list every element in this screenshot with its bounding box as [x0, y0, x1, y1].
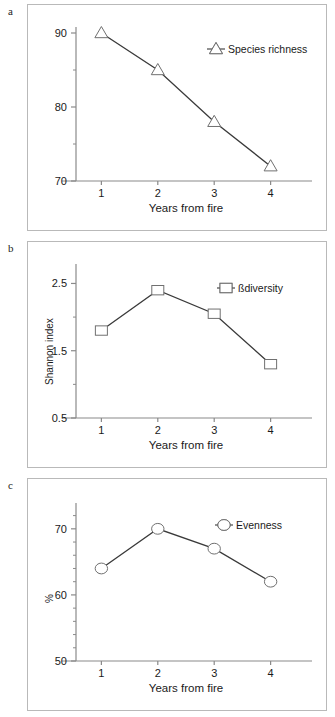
data-point-marker	[152, 523, 164, 534]
y-axis-tick-label: 50	[55, 655, 67, 667]
data-point-marker	[264, 576, 276, 587]
figure-three-panel-line-charts: a 7080901234Years from fireSpecies richn…	[0, 0, 335, 717]
x-axis-tick-label: 4	[268, 187, 274, 199]
data-point-marker	[151, 64, 164, 75]
x-axis-label: Years from fire	[149, 202, 223, 214]
legend-marker-top	[210, 43, 223, 54]
panel-b-frame: 0.51.52.51234Years from fireßdiversity S…	[27, 241, 327, 468]
legend-label: Evenness	[236, 519, 282, 531]
x-axis-tick-label: 2	[155, 424, 161, 436]
y-axis-tick-label: 0.5	[52, 412, 67, 424]
panel-b-plot: 0.51.52.51234Years from fireßdiversity	[28, 242, 328, 469]
panel-c: c 5060701234Years from fireEvenness %	[0, 474, 335, 717]
x-axis-tick-label: 3	[211, 424, 217, 436]
data-point-marker	[95, 326, 107, 335]
panel-b: b 0.51.52.51234Years from fireßdiversity…	[0, 237, 335, 474]
panel-letter-c: c	[8, 480, 13, 491]
data-point-marker	[264, 160, 277, 171]
panel-c-plot: 5060701234Years from fireEvenness	[28, 479, 328, 712]
panel-a-frame: 7080901234Years from fireSpecies richnes…	[27, 4, 327, 231]
data-line	[101, 529, 270, 582]
data-point-marker	[152, 286, 164, 295]
panel-b-y-axis-label: Shannon index	[44, 313, 55, 391]
x-axis-label: Years from fire	[149, 439, 223, 451]
legend-label: ßdiversity	[238, 282, 284, 294]
x-axis-tick-label: 4	[268, 667, 274, 679]
x-axis-tick-label: 3	[211, 667, 217, 679]
y-axis-tick-label: 90	[55, 27, 67, 39]
legend-marker-top	[218, 520, 230, 531]
x-axis-tick-label: 2	[155, 187, 161, 199]
panel-a-plot: 7080901234Years from fireSpecies richnes…	[28, 5, 328, 232]
x-axis-tick-label: 4	[268, 424, 274, 436]
legend-label: Species richness	[228, 43, 307, 55]
legend-marker-top	[220, 283, 232, 292]
panel-a: a 7080901234Years from fireSpecies richn…	[0, 0, 335, 237]
y-axis-tick-label: 60	[55, 589, 67, 601]
x-axis-label: Years from fire	[149, 682, 223, 694]
data-point-marker	[208, 543, 220, 554]
data-point-marker	[208, 309, 220, 318]
data-point-marker	[265, 360, 277, 369]
y-axis-tick-label: 80	[55, 101, 67, 113]
data-point-marker	[95, 563, 107, 574]
data-line	[101, 290, 270, 364]
y-axis-tick-label: 70	[55, 175, 67, 187]
panel-c-y-axis-label: %	[44, 586, 55, 612]
panel-letter-b: b	[8, 243, 14, 254]
x-axis-tick-label: 1	[98, 187, 104, 199]
panel-letter-a: a	[8, 6, 13, 17]
x-axis-tick-label: 1	[98, 424, 104, 436]
data-point-marker	[95, 27, 108, 38]
y-axis-tick-label: 70	[55, 523, 67, 535]
panel-c-frame: 5060701234Years from fireEvenness %	[27, 478, 327, 711]
x-axis-tick-label: 1	[98, 667, 104, 679]
x-axis-tick-label: 2	[155, 667, 161, 679]
y-axis-tick-label: 2.5	[52, 277, 67, 289]
x-axis-tick-label: 3	[211, 187, 217, 199]
